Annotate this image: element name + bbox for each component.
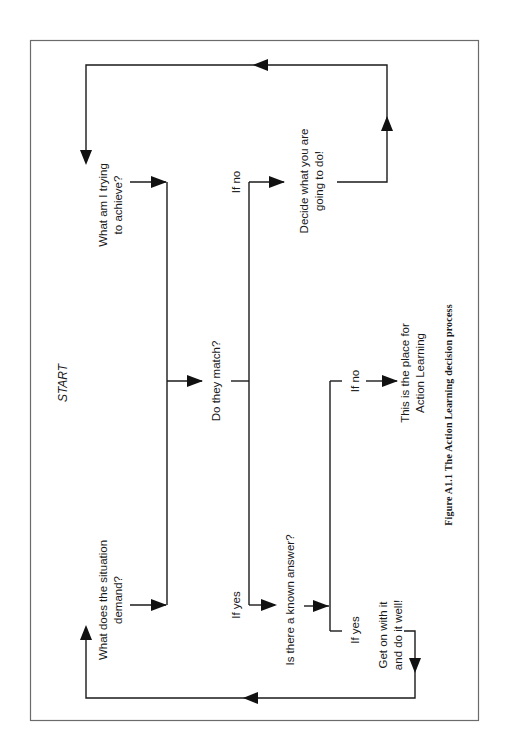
- known-answer-branch-connector: [304, 375, 398, 631]
- get-on-line2: and do it well!: [392, 600, 404, 670]
- do-they-match-label: Do they match?: [210, 341, 222, 422]
- inputs-connector: [130, 176, 203, 611]
- decide-line1: Decide what you are: [298, 129, 310, 234]
- situation-line2: demand?: [112, 576, 124, 624]
- arrow-up-icon: [80, 625, 92, 640]
- top-loop-connector: [80, 59, 393, 182]
- decide-line2: going to do!: [313, 151, 325, 211]
- arrow-right-icon: [269, 176, 285, 188]
- arrow-up-icon: [381, 116, 393, 131]
- action-learning-line1: This is the place for: [399, 323, 411, 423]
- bottom-loop-connector: [80, 625, 421, 704]
- arrow-left-icon: [253, 59, 268, 71]
- match-branch-connector: [231, 176, 285, 611]
- if-no-right-label: If no: [349, 370, 361, 392]
- arrow-down-icon: [409, 658, 421, 673]
- arrow-left-icon: [243, 692, 258, 704]
- arrow-right-icon: [151, 599, 167, 611]
- decision-diagram: START What am I trying to achieve? What …: [0, 0, 507, 754]
- arrow-right-icon: [313, 600, 329, 612]
- if-yes-left-label: If yes: [230, 591, 242, 619]
- if-no-top-label: If no: [230, 171, 242, 193]
- start-label: START: [56, 362, 70, 402]
- situation-line1: What does the situation: [97, 540, 109, 660]
- known-answer-label: Is there a known answer?: [284, 534, 296, 665]
- arrow-right-icon: [261, 599, 277, 611]
- figure-caption: Figure A1.1 The Action Learning decision…: [443, 304, 454, 526]
- get-on-line1: Get on with it: [377, 601, 389, 669]
- what-trying-line1: What am I trying: [97, 163, 109, 247]
- arrow-right-icon: [187, 375, 203, 387]
- arrow-right-icon: [382, 375, 398, 387]
- action-learning-line2: Action Learning: [414, 333, 426, 413]
- arrow-right-icon: [151, 176, 167, 188]
- arrow-down-icon: [80, 150, 92, 165]
- what-trying-line2: to achieve?: [112, 176, 124, 235]
- if-yes-right-label: If yes: [349, 616, 361, 644]
